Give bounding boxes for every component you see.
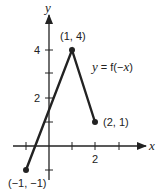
function-graph: 2 2 4 y x (1, 4) (2, 1) (−1, −1) y = f(−… [0,0,161,195]
y-tick-label-2: 2 [34,92,40,104]
function-label-body: = f(− [98,61,124,73]
function-label-close: ) [129,61,133,73]
point-right [92,119,98,125]
y-axis-label: y [43,0,51,15]
function-line [26,50,95,170]
point-top [69,47,75,53]
y-tick-label-4: 4 [34,44,40,56]
point-label-right: (2, 1) [103,116,129,128]
function-label: y = f(−x) [90,59,133,74]
point-label-left: (−1, −1) [8,177,47,189]
x-tick-label-2: 2 [92,153,98,165]
point-left [23,167,29,173]
point-label-top: (1, 4) [60,30,86,42]
x-axis-label: x [148,138,155,153]
